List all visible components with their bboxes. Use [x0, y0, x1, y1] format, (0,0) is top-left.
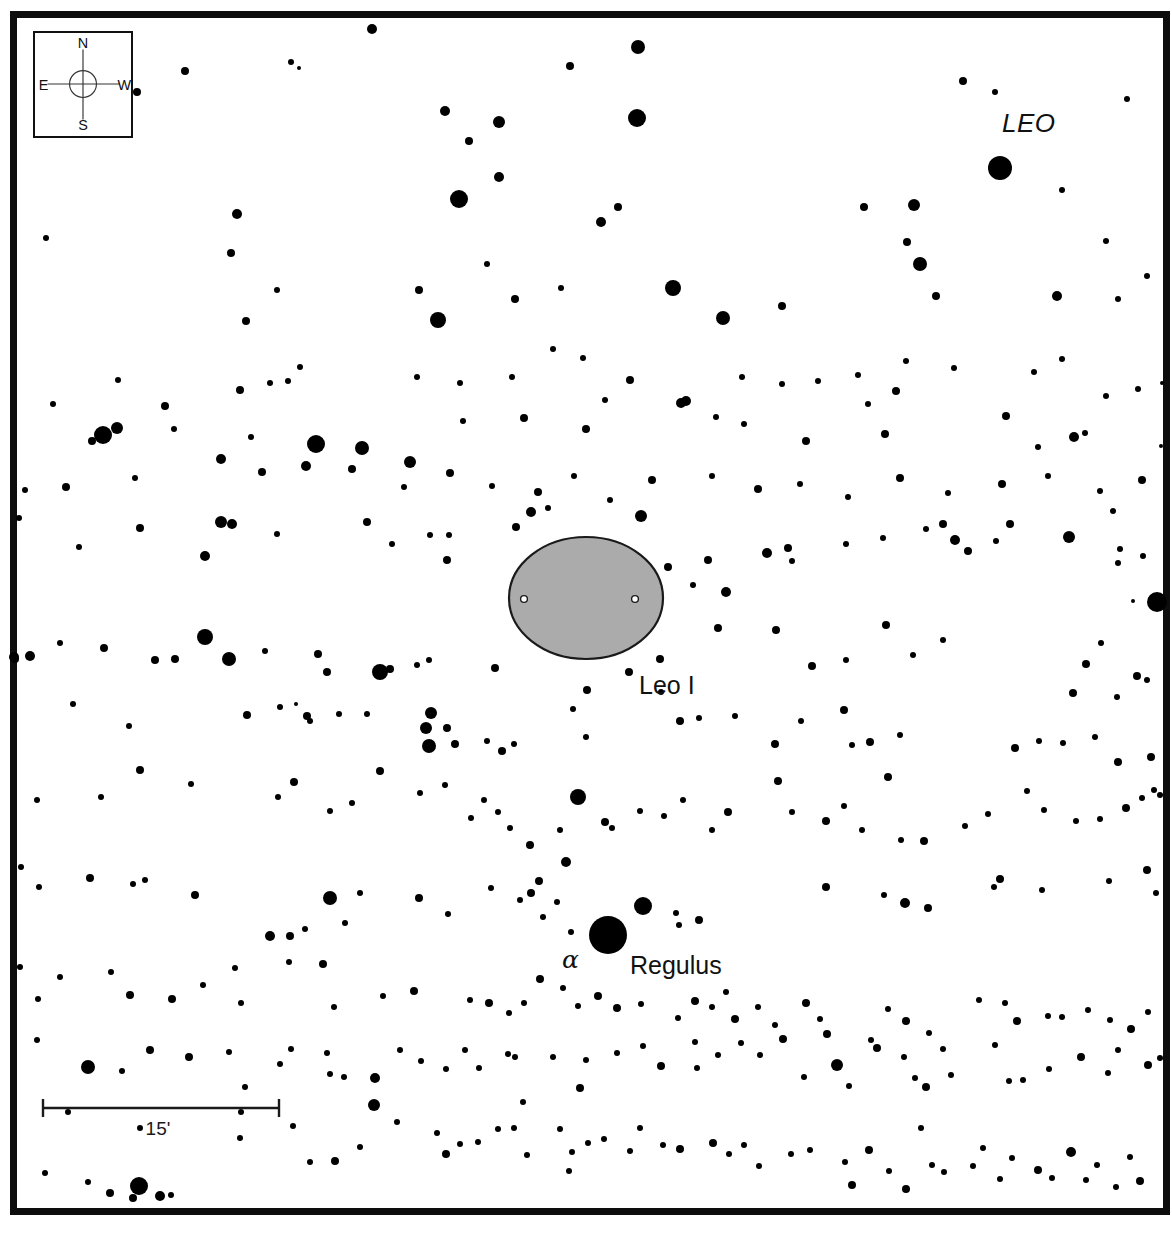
object-label-leo-i: Leo I: [639, 671, 695, 700]
leo-i-galaxy: [507, 535, 665, 662]
compass-label-west: W: [117, 77, 131, 93]
galaxy-inner-star-east: [521, 596, 528, 603]
compass-label-north: N: [78, 36, 88, 52]
galaxy-ellipse: [509, 537, 663, 659]
scale-bar-label: 15': [38, 1118, 278, 1140]
compass-label-east: E: [39, 77, 49, 93]
galaxy-inner-star-west: [632, 596, 639, 603]
constellation-label-leo: LEO: [1002, 108, 1056, 139]
bayer-designation-alpha: α: [562, 945, 579, 974]
star-label-regulus: Regulus: [630, 951, 722, 980]
star-chart: N S E W 15' LEO Leo I Regulus α: [0, 0, 1172, 1235]
compass-rose: N S E W: [33, 31, 133, 138]
compass-label-south: S: [78, 117, 88, 133]
